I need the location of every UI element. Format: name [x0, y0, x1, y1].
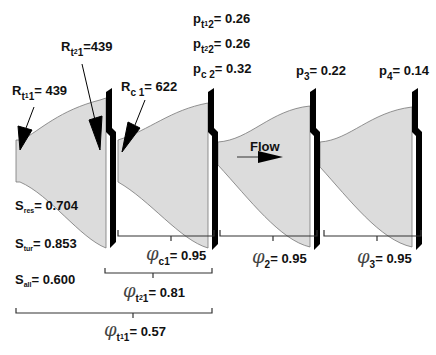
- label-R-t2: Rt21=439: [61, 40, 113, 53]
- label-S-all: Sall= 0.600: [15, 273, 75, 286]
- label-p-c2: pc 2= 0.32: [193, 62, 251, 75]
- label-p-4: p4= 0.14: [379, 64, 429, 77]
- bracket-t1: [16, 308, 212, 318]
- label-S-res: Sres= 0.704: [15, 199, 78, 212]
- label-p-t1-2: pt12= 0.26: [193, 12, 250, 25]
- bracket-t2: [105, 268, 212, 278]
- label-phi-t2-1: φt21= 0.81: [123, 282, 185, 300]
- nozzle-segment-4: [320, 107, 412, 247]
- label-phi-3: φ3= 0.95: [357, 248, 412, 266]
- label-R-t1: Rt11= 439: [12, 84, 67, 97]
- label-S-tur: Stur= 0.853: [15, 237, 77, 250]
- label-phi-2: φ2= 0.95: [252, 248, 307, 266]
- label-p-3: p3= 0.22: [296, 64, 346, 77]
- label-p-t2-2: pt22= 0.26: [193, 37, 250, 50]
- flow-label: Flow: [250, 139, 280, 154]
- baffle-4: [412, 88, 422, 250]
- baffle-1: [106, 88, 116, 248]
- baffle-3: [310, 88, 320, 250]
- nozzle-segment-3: [218, 106, 310, 247]
- baffle-2: [208, 88, 218, 250]
- label-R-c: Rc 1= 622: [121, 80, 177, 93]
- label-phi-c1: φc1= 0.95: [146, 245, 206, 263]
- label-phi-t1-1: φt11= 0.57: [104, 321, 166, 339]
